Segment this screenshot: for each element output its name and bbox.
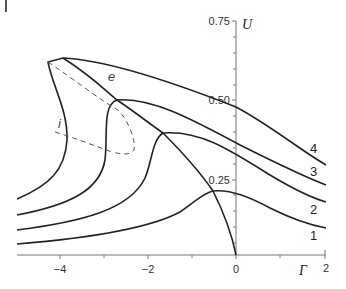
curve-label-3: 3 xyxy=(310,164,317,179)
x-axis-title: Γ xyxy=(298,263,308,278)
curve-label-4: 4 xyxy=(310,141,317,156)
dashed-label-i: i xyxy=(58,116,62,131)
y-tick-label: 0.75 xyxy=(209,15,230,27)
curve-4 xyxy=(17,58,326,199)
y-tick-label: 0.25 xyxy=(209,174,230,186)
envelope-curve-e xyxy=(63,58,236,255)
x-axis xyxy=(17,250,326,259)
y-axis xyxy=(232,21,236,255)
y-axis-title: U xyxy=(242,17,253,32)
x-tick-label: −4 xyxy=(54,263,67,275)
x-tick-label: 2 xyxy=(323,262,329,274)
x-tick-label: −2 xyxy=(142,263,155,275)
dashed-curve-i xyxy=(48,62,134,154)
curves xyxy=(17,58,326,255)
corner-mark xyxy=(5,0,7,12)
curve-1 xyxy=(17,191,326,244)
x-tick-label: 0 xyxy=(233,263,239,275)
curve-label-1: 1 xyxy=(310,228,317,243)
curve-label-2: 2 xyxy=(310,202,317,217)
chart: −4 −2 0 2 Γ 0.75 0.50 0.25 U xyxy=(0,0,346,289)
envelope-label-e: e xyxy=(108,69,115,84)
